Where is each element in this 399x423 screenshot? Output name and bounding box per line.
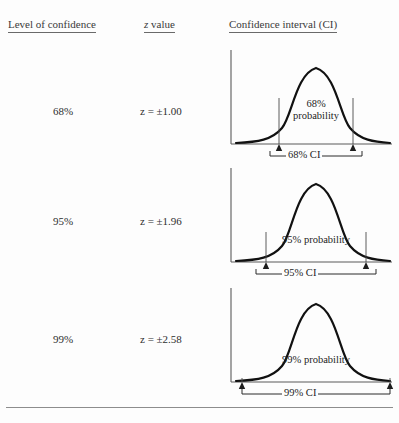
bell-curve-path-95 <box>236 184 390 261</box>
ci-label-95: 95% CI <box>282 267 318 278</box>
probability-label-99: 99% probability <box>256 354 376 366</box>
ci-label-68: 68% CI <box>286 149 322 160</box>
ci-arrowhead-right-99 <box>387 382 393 389</box>
column-header-level-of-confidence: Level of confidence <box>8 18 96 33</box>
ci-arrowhead-left-99 <box>239 382 245 389</box>
level-of-confidence-row-2: 95% <box>53 215 73 227</box>
probability-label-95-line1: 95% probability <box>256 234 376 246</box>
level-of-confidence-row-1: 68% <box>53 105 73 117</box>
distribution-chart-95: 95% probability 95% CI <box>220 162 395 282</box>
ci-arrowhead-left-68 <box>276 144 282 151</box>
bell-curve-svg-99 <box>220 284 395 404</box>
column-header-confidence-interval: Confidence interval (CI) <box>229 18 337 33</box>
z-value-row-1: z = ±1.00 <box>140 105 182 117</box>
ci-label-99: 99% CI <box>282 387 318 398</box>
confidence-interval-figure: Level of confidence z value Confidence i… <box>0 0 399 423</box>
ci-arrowhead-right-95 <box>363 262 369 269</box>
bell-curve-svg-95 <box>220 162 395 282</box>
column-header-z-value: z value <box>144 18 175 33</box>
bell-curve-path-99 <box>236 304 390 381</box>
z-value-word: value <box>148 18 175 30</box>
probability-label-68: 68% probability <box>280 98 352 122</box>
figure-bottom-rule <box>6 407 393 408</box>
probability-label-99-line1: 99% probability <box>256 354 376 366</box>
probability-label-68-line1: 68% <box>280 98 352 110</box>
probability-label-95: 95% probability <box>256 234 376 246</box>
distribution-chart-68: 68% probability 68% CI <box>220 42 395 162</box>
ci-arrowhead-right-68 <box>350 144 356 151</box>
level-of-confidence-row-3: 99% <box>53 333 73 345</box>
distribution-chart-99: 99% probability 99% CI <box>220 284 395 404</box>
z-value-row-3: z = ±2.58 <box>140 333 182 345</box>
z-value-row-2: z = ±1.96 <box>140 215 182 227</box>
probability-label-68-line2: probability <box>280 110 352 122</box>
ci-arrowhead-left-95 <box>263 262 269 269</box>
